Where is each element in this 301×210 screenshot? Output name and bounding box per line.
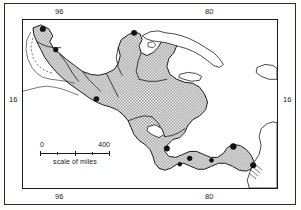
- scale-bar-max-label: 400: [98, 141, 110, 148]
- hispaniola-outline: [256, 64, 277, 79]
- city-dot: [40, 26, 46, 32]
- map-figure: 96 80 96 80 16 16 515: [0, 0, 301, 210]
- graticule-label-left: 16: [9, 95, 18, 104]
- city-dot: [164, 146, 170, 152]
- city-dot: [178, 162, 182, 166]
- graticule-label-bottom-left: 96: [55, 192, 64, 201]
- jamaica-outline: [179, 72, 202, 81]
- colombia-outline: [247, 122, 277, 188]
- city-dot: [53, 47, 58, 52]
- city-dot: [131, 30, 137, 36]
- city-dot: [187, 156, 192, 161]
- city-dot: [94, 96, 100, 102]
- scale-bar: 0 400 scale of miles: [40, 141, 110, 165]
- isla-de-la-juventud: [148, 42, 156, 48]
- scale-bar-min-label: 0: [40, 141, 44, 148]
- city-dot: [250, 162, 256, 168]
- scale-bar-numbers: 0 400: [40, 141, 110, 150]
- graticule-label-right: 16: [283, 95, 292, 104]
- city-dot: [209, 158, 214, 163]
- graticule-label-top-right: 80: [205, 7, 214, 16]
- graticule-label-bottom-right: 80: [205, 192, 214, 201]
- scale-bar-caption: scale of miles: [40, 158, 110, 165]
- graticule-label-top-left: 96: [55, 7, 64, 16]
- scale-bar-rule: [40, 151, 110, 157]
- city-dot: [230, 143, 236, 149]
